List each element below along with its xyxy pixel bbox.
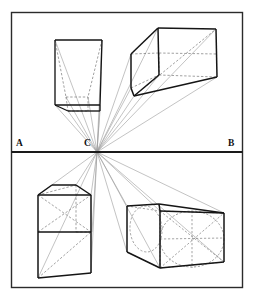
- label-c-vanishing-point: C: [84, 139, 91, 149]
- solid-edge: [216, 29, 217, 77]
- perspective-figure: A C B: [0, 0, 261, 304]
- label-b: B: [228, 139, 235, 149]
- solid-edge: [158, 28, 159, 75]
- solid-edge: [159, 204, 160, 211]
- solid-edge: [158, 28, 216, 29]
- perspective-drawing-canvas: [0, 0, 261, 304]
- label-a: A: [16, 139, 23, 149]
